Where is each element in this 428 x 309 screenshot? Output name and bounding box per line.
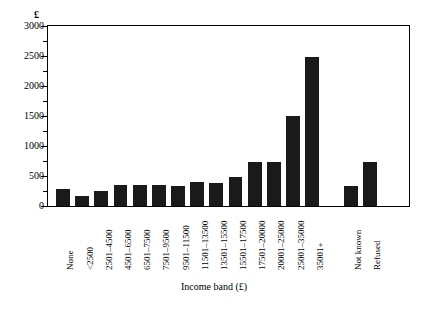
bar-slot	[94, 26, 108, 206]
y-axis-major-tick	[41, 26, 47, 27]
x-axis-tick-label: 2501–4500	[105, 230, 114, 271]
x-axis-tick-label: 7501–9500	[162, 230, 171, 271]
bar	[248, 162, 262, 206]
bar	[229, 177, 243, 206]
bar	[363, 162, 377, 206]
x-axis-tick-label: 20001–25000	[277, 221, 286, 271]
bar-slot	[190, 26, 204, 206]
bar-chart-figure: £ 050010001500200025003000 None<25002501…	[0, 0, 428, 309]
y-axis-minor-tick	[43, 71, 47, 72]
y-axis-major-tick	[41, 146, 47, 147]
x-axis-tick-label: Refused	[373, 241, 382, 271]
y-axis-major-tick	[41, 116, 47, 117]
y-axis-minor-tick	[43, 101, 47, 102]
x-axis-tick-label: <2500	[86, 247, 95, 270]
x-axis-tick-labels: None<25002501–45004501–65006501–75007501…	[48, 208, 409, 272]
x-axis-tick-label: 6501–7500	[143, 230, 152, 271]
x-axis-tick-label: 25001–35000	[297, 221, 306, 271]
bar	[133, 185, 147, 206]
y-axis-major-tick	[41, 86, 47, 87]
y-axis-minor-tick	[43, 131, 47, 132]
bar	[286, 116, 300, 206]
bar-slot	[133, 26, 147, 206]
x-axis-tick-label: 9501–11500	[182, 225, 191, 270]
bar-slot	[248, 26, 262, 206]
bar	[94, 191, 108, 206]
bar	[267, 162, 281, 206]
bar-slot	[171, 26, 185, 206]
y-axis-major-tick	[41, 206, 47, 207]
x-axis-tick-label: 11501–13500	[201, 221, 210, 270]
x-axis-title: Income band (£)	[0, 282, 428, 292]
y-axis-minor-tick	[43, 161, 47, 162]
bar	[152, 185, 166, 206]
x-axis-tick-label: 15501–17500	[239, 221, 248, 271]
x-axis-tick-label: 17501–20000	[258, 221, 267, 271]
bar	[56, 189, 70, 206]
x-axis-tick-label: 35001+	[316, 242, 325, 270]
y-axis-major-tick	[41, 56, 47, 57]
bar-slot	[152, 26, 166, 206]
bars-area	[48, 26, 409, 206]
bar-slot	[229, 26, 243, 206]
y-axis-tick-labels: 050010001500200025003000	[0, 25, 44, 207]
x-axis-tick-label: None	[66, 251, 75, 271]
bar-slot	[56, 26, 70, 206]
y-axis-unit-label: £	[34, 10, 39, 20]
x-axis-tick-label: Not known	[354, 230, 363, 270]
x-axis-tick-label: 13501–15500	[220, 221, 229, 271]
bar	[171, 186, 185, 206]
bar-slot	[286, 26, 300, 206]
bar-slot	[267, 26, 281, 206]
bar-slot	[75, 26, 89, 206]
y-axis-minor-tick	[43, 41, 47, 42]
x-axis-tick-label: 4501–6500	[124, 230, 133, 271]
y-axis-minor-tick	[43, 191, 47, 192]
bar-slot	[363, 26, 377, 206]
bar	[344, 186, 358, 206]
bar-slot	[114, 26, 128, 206]
bar	[114, 185, 128, 206]
bar	[209, 183, 223, 206]
bar-slot	[344, 26, 358, 206]
bar	[75, 196, 89, 206]
bar	[305, 57, 319, 206]
bar	[190, 182, 204, 206]
bar-slot	[305, 26, 319, 206]
bar-slot	[209, 26, 223, 206]
y-axis-major-tick	[41, 176, 47, 177]
